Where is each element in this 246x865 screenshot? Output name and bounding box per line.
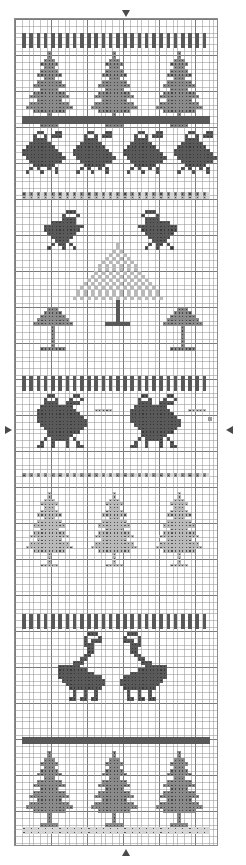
right-center-arrow-icon (226, 426, 233, 434)
top-center-arrow-icon (122, 10, 130, 17)
stitch-canvas (15, 19, 217, 845)
pattern-grid-frame (14, 18, 218, 846)
bottom-center-arrow-icon (122, 849, 130, 856)
right-margin-tick (208, 417, 212, 421)
left-center-arrow-icon (5, 426, 12, 434)
stitch-layer (15, 19, 217, 845)
cross-stitch-chart (0, 0, 246, 865)
